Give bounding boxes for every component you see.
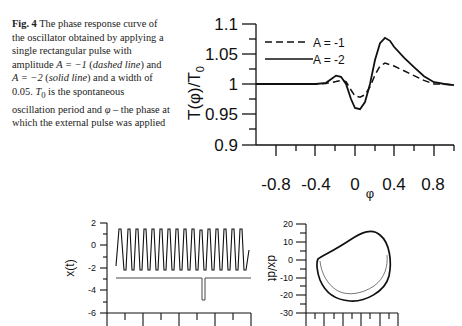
prc-y-tick-labels: 1.1 1.05 1 0.95 0.9 xyxy=(205,15,238,155)
svg-text:0.4: 0.4 xyxy=(382,175,406,194)
xt-ylabel: x(t) xyxy=(63,259,77,276)
pp-y-tick-labels: 20 10 0 -10 -20 -30 xyxy=(280,219,293,318)
pp-y-ticks xyxy=(296,224,306,313)
svg-text:-10: -10 xyxy=(280,273,293,283)
svg-text:-0.4: -0.4 xyxy=(301,175,330,194)
phase-portrait-chart: dx/dt 20 10 0 -10 -20 -30 xyxy=(265,219,398,326)
pp-x-ticks xyxy=(306,313,398,326)
xt-pulse xyxy=(116,278,251,300)
xt-y-tick-labels: 2 0 -2 -4 -6 xyxy=(88,218,96,318)
svg-text:1: 1 xyxy=(229,75,238,94)
pp-limit-cycle xyxy=(317,231,390,301)
svg-text:-4: -4 xyxy=(88,285,96,295)
legend-a2: A = -2 xyxy=(313,53,345,67)
prc-chart: T(φ)/T0 1.1 1.05 1 0.95 0.9 xyxy=(185,15,454,201)
svg-text:0.95: 0.95 xyxy=(205,105,238,124)
xt-y-ticks xyxy=(100,223,107,313)
svg-text:20: 20 xyxy=(283,219,293,229)
svg-text:10: 10 xyxy=(283,237,293,247)
prc-y-ticks xyxy=(242,24,256,145)
pp-perturbed-trajectory xyxy=(320,255,387,294)
svg-text:0: 0 xyxy=(288,255,293,265)
series-a2-solid xyxy=(256,38,454,109)
legend-a1: A = -1 xyxy=(313,36,345,50)
svg-text:0: 0 xyxy=(91,240,96,250)
svg-text:0.9: 0.9 xyxy=(214,136,238,155)
svg-text:2: 2 xyxy=(91,218,96,228)
xt-x-ticks xyxy=(107,313,251,326)
svg-text:0: 0 xyxy=(350,175,359,194)
svg-text:-30: -30 xyxy=(280,308,293,318)
prc-x-ticks xyxy=(276,145,454,156)
svg-text:1.05: 1.05 xyxy=(205,45,238,64)
prc-xlabel: φ xyxy=(366,186,374,201)
svg-text:-6: -6 xyxy=(88,308,96,318)
svg-text:-2: -2 xyxy=(88,263,96,273)
pp-ylabel: dx/dt xyxy=(265,255,279,282)
xt-oscillation xyxy=(116,229,249,270)
series-a1-dashed xyxy=(256,63,454,97)
svg-text:-20: -20 xyxy=(280,290,293,300)
svg-text:0.8: 0.8 xyxy=(421,175,445,194)
svg-text:-0.8: -0.8 xyxy=(261,175,290,194)
prc-ylabel: T(φ)/T0 xyxy=(185,66,206,120)
figure-canvas: T(φ)/T0 1.1 1.05 1 0.95 0.9 xyxy=(0,0,462,326)
svg-text:1.1: 1.1 xyxy=(214,15,238,34)
xt-chart: x(t) 2 0 -2 -4 -6 xyxy=(63,218,251,326)
prc-x-tick-labels: -0.8 -0.4 0 0.4 0.8 xyxy=(261,175,444,194)
prc-legend: A = -1 A = -2 xyxy=(265,36,345,67)
